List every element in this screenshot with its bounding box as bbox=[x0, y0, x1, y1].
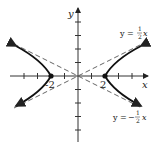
svg-text:2: 2 bbox=[138, 33, 142, 40]
vertex-left-label: -2 bbox=[45, 79, 55, 90]
hyperbola-diagram: y x -2 2 y = 1 2 x y = − 1 2 x bbox=[0, 0, 157, 150]
svg-text:x: x bbox=[143, 29, 148, 38]
svg-text:y =: y = bbox=[112, 113, 127, 122]
y-axis-label: y bbox=[67, 8, 74, 19]
vertex-right-label: 2 bbox=[100, 79, 106, 90]
svg-text:1: 1 bbox=[138, 25, 142, 32]
svg-text:−: − bbox=[128, 113, 135, 122]
asymptote-label-positive: y = 1 2 x bbox=[119, 25, 148, 40]
svg-text:y =: y = bbox=[119, 29, 134, 38]
x-axis-label: x bbox=[142, 79, 148, 90]
svg-text:2: 2 bbox=[136, 117, 140, 124]
svg-text:x: x bbox=[142, 113, 147, 122]
vertex-right bbox=[102, 73, 107, 78]
vertex-left bbox=[48, 73, 53, 78]
svg-text:1: 1 bbox=[136, 109, 140, 116]
asymptote-label-negative: y = − 1 2 x bbox=[112, 109, 147, 124]
